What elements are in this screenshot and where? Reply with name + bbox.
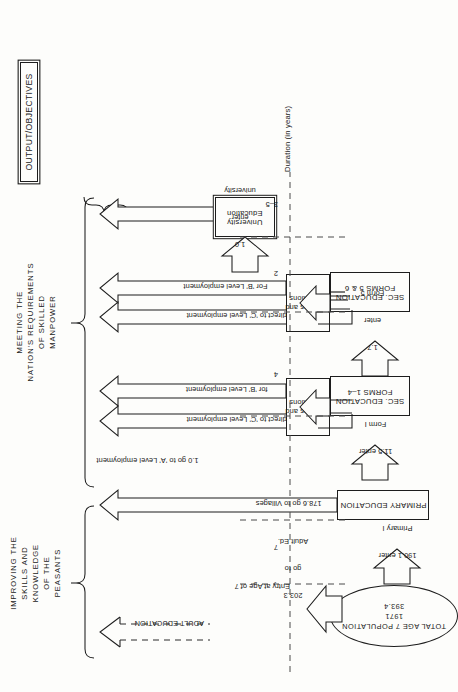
duration-tick-2: 2 [274, 269, 278, 278]
flow-label-enter-form-5: 1.7 enter Form 5 [350, 271, 395, 370]
duration-tick-4: 4 [274, 370, 278, 379]
entry-age-note: Entry at Age of 7 [235, 582, 291, 591]
ellipse-total-age-7-population: TOTAL AGE 7 POPULATION 1971 393.4 [330, 585, 458, 647]
flow-label-enter-primary-1: 190.1 enter Primary I [375, 506, 420, 578]
flow-label-enter-form-1: 11.5 enter Form I [353, 402, 398, 474]
duration-axis-title: Duration (in years) [283, 106, 292, 172]
duration-tick-3-5: 3–5 [266, 200, 278, 209]
duration-tick-7: 7 [274, 543, 278, 552]
